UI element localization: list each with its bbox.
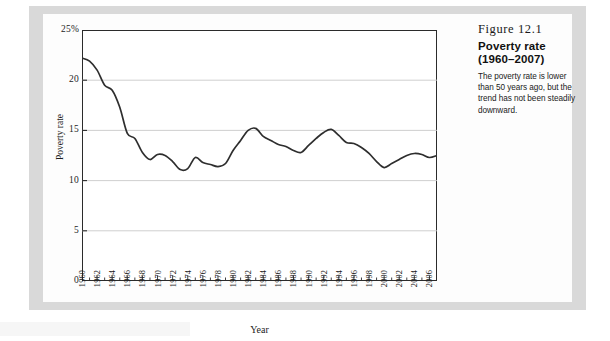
x-tick-label: 2002 [395, 270, 404, 304]
x-tick-label: 1992 [320, 270, 329, 304]
x-tick-label: 1970 [154, 270, 163, 304]
gridlines [82, 30, 437, 231]
y-tick-label: 5 [43, 225, 79, 235]
x-tick-label: 1980 [229, 270, 238, 304]
poverty-rate-chart: 0510152025% Poverty rate 196019621964196… [43, 14, 463, 302]
x-tick-label: 1984 [259, 270, 268, 304]
x-tick-label: 1988 [289, 270, 298, 304]
x-tick-label: 1986 [274, 270, 283, 304]
x-axis-tick-labels: 1960196219641966196819701972197419761978… [82, 283, 437, 317]
caption-figure-number: Figure 12.1 [478, 22, 582, 37]
caption-title-line2: (1960–2007) [478, 53, 582, 66]
x-tick-label: 1994 [335, 270, 344, 304]
x-tick-label: 1960 [78, 270, 87, 304]
x-tick-label: 1964 [108, 270, 117, 304]
y-tick-label: 25% [43, 24, 79, 34]
caption-title-line1: Poverty rate [478, 40, 582, 53]
x-axis-title: Year [82, 324, 437, 335]
caption-title: Poverty rate (1960–2007) [478, 40, 582, 67]
figure-page: 0510152025% Poverty rate 196019621964196… [0, 0, 610, 341]
poverty-rate-line [82, 58, 437, 170]
figure-caption: Figure 12.1 Poverty rate (1960–2007) The… [478, 22, 582, 116]
y-tick-label: 0 [43, 275, 79, 285]
x-tick-label: 1974 [184, 270, 193, 304]
plot-canvas [82, 30, 437, 281]
x-tick-label: 1972 [169, 270, 178, 304]
y-axis-tick-marks [82, 30, 87, 281]
y-tick-label: 20 [43, 74, 79, 84]
x-tick-label: 1978 [214, 270, 223, 304]
x-tick-label: 1966 [123, 270, 132, 304]
x-tick-label: 1976 [199, 270, 208, 304]
x-tick-label: 2004 [410, 270, 419, 304]
x-tick-label: 2000 [380, 270, 389, 304]
x-tick-label: 1962 [93, 270, 102, 304]
x-tick-label: 1996 [350, 270, 359, 304]
caption-body-text: The poverty rate is lower than 50 years … [478, 71, 582, 116]
y-axis-title: Poverty rate [55, 97, 65, 177]
x-tick-label: 1998 [365, 270, 374, 304]
x-tick-label: 1982 [244, 270, 253, 304]
x-tick-label: 1968 [138, 270, 147, 304]
x-tick-label: 2006 [425, 270, 434, 304]
x-tick-label: 1990 [305, 270, 314, 304]
